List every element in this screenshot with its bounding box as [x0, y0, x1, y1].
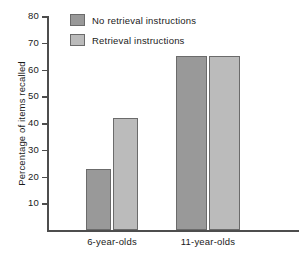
y-tick-20	[42, 177, 48, 179]
y-tick-label-80: 80	[15, 11, 39, 21]
bar-chart: Percentage of items recalled 80 70 60 50…	[0, 0, 306, 261]
y-tick-30	[42, 150, 48, 152]
legend-swatch-retrieval-instructions	[70, 34, 85, 46]
y-tick-label-10: 10	[15, 198, 39, 208]
y-tick-label-70: 70	[15, 38, 39, 48]
bar-11-year-olds-no-retrieval	[176, 56, 207, 230]
legend-swatch-no-retrieval-instructions	[70, 14, 85, 26]
bar-6-year-olds-retrieval	[113, 118, 138, 230]
y-tick-40	[42, 123, 48, 125]
y-tick-60	[42, 70, 48, 72]
y-tick-label-60: 60	[15, 65, 39, 75]
x-category-label-0: 6-year-olds	[72, 236, 152, 247]
legend: No retrieval instructions Retrieval inst…	[70, 12, 196, 52]
y-tick-label-50: 50	[15, 91, 39, 101]
x-axis-line	[47, 230, 299, 232]
legend-label-retrieval-instructions: Retrieval instructions	[92, 35, 185, 46]
y-tick-70	[42, 43, 48, 45]
legend-item-retrieval-instructions: Retrieval instructions	[70, 32, 196, 48]
y-tick-80	[42, 16, 48, 18]
bar-6-year-olds-no-retrieval	[86, 169, 111, 231]
bar-11-year-olds-retrieval	[209, 56, 240, 230]
legend-item-no-retrieval-instructions: No retrieval instructions	[70, 12, 196, 28]
legend-label-no-retrieval-instructions: No retrieval instructions	[92, 15, 196, 26]
y-tick-label-30: 30	[15, 145, 39, 155]
y-tick-10	[42, 203, 48, 205]
x-category-label-1: 11-year-olds	[168, 236, 248, 247]
y-tick-label-20: 20	[15, 172, 39, 182]
y-tick-50	[42, 96, 48, 98]
y-tick-label-40: 40	[15, 118, 39, 128]
